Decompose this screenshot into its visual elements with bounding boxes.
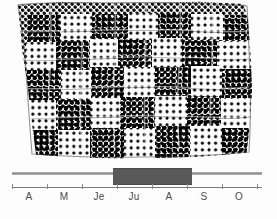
axis-label-0: A	[12, 191, 46, 202]
activity-period-bar[interactable]	[113, 168, 192, 185]
axis-label-6: O	[222, 191, 256, 202]
timeline-axis-line	[12, 187, 262, 188]
axis-label-1: M	[47, 191, 81, 202]
axis-tick	[82, 184, 83, 189]
axis-label-2: Je	[82, 191, 116, 202]
axis-tick	[47, 184, 48, 189]
map-clip	[0, 0, 277, 166]
axis-tick	[12, 184, 13, 189]
axis-tick	[222, 184, 223, 189]
halftone-map-region	[0, 0, 277, 166]
cell-boundary-lines	[0, 0, 277, 166]
axis-label-4: A	[152, 191, 186, 202]
axis-tick	[152, 184, 153, 189]
axis-label-3: Ju	[117, 191, 151, 202]
season-timeline: AMJeJuASO	[0, 163, 277, 219]
figure-container: AMJeJuASO	[0, 0, 277, 219]
axis-label-5: S	[187, 191, 221, 202]
axis-tick	[117, 184, 118, 189]
axis-tick	[257, 184, 258, 189]
axis-tick	[187, 184, 188, 189]
